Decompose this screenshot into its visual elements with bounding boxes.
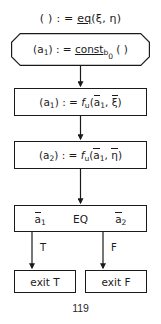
fu1-lhs-close: ): [55, 96, 59, 108]
node-const-text: (a1) : = constb0 ( ): [33, 43, 128, 57]
fu2-lhs: (a: [39, 149, 50, 161]
eq-right-operand-group: a2: [115, 213, 126, 225]
fu2-paren-close: ): [118, 149, 122, 161]
header-args: (ξ, η): [91, 12, 121, 25]
node-exit-true-text: exit T: [30, 276, 59, 288]
const-lhs: (a: [33, 43, 44, 55]
const-operator: const: [75, 43, 103, 55]
eq-left-sub: 1: [41, 218, 46, 227]
node-fu2-text: (a2) : = fu(a1, η): [39, 149, 122, 161]
eq-left-operand: a: [35, 213, 41, 225]
node-exit-false-text: exit F: [102, 276, 131, 288]
fu1-paren-close: ): [118, 96, 122, 108]
eq-comparator: EQ: [73, 213, 88, 225]
node-exit-true[interactable]: exit T: [14, 270, 76, 293]
const-assign: : =: [56, 43, 72, 55]
edge-label-true: T: [40, 242, 46, 253]
flowchart-diagram: ( ) : = eq(ξ, η) (a1) : = constb0 ( ): [0, 0, 161, 324]
fu2-lhs-close: ): [54, 149, 58, 161]
fu1-arg2: ξ: [112, 96, 118, 108]
const-args: ( ): [116, 43, 128, 55]
node-exit-false[interactable]: exit F: [85, 270, 147, 293]
header-assign: : =: [56, 12, 73, 25]
fu1-comma: ,: [105, 96, 112, 108]
eq-left-operand-group: a1: [35, 213, 46, 225]
header-lhs: ( ): [40, 12, 53, 25]
fu1-arg1: a: [94, 96, 100, 108]
node-fu1-text: (a1) : = fu(a1, ξ): [39, 96, 121, 108]
header-formula: ( ) : = eq(ξ, η): [0, 12, 161, 25]
fu1-lhs: (a: [39, 96, 50, 108]
fu2-arg1: a: [93, 149, 99, 161]
eq-right-operand: a: [115, 213, 121, 225]
const-op-subsub: 0: [108, 51, 113, 60]
node-eq-text: a1 EQ a2: [15, 213, 146, 225]
node-fu-assignment-a2[interactable]: (a2) : = fu(a1, η): [14, 141, 147, 169]
fu2-comma: ,: [105, 149, 112, 161]
edge-label-false: F: [111, 242, 117, 253]
const-lhs-close: ): [48, 43, 52, 55]
node-eq-comparison[interactable]: a1 EQ a2: [14, 205, 147, 232]
page-number: 119: [0, 302, 161, 314]
fu1-assign: : =: [62, 96, 78, 108]
node-const-assignment[interactable]: (a1) : = constb0 ( ): [11, 33, 150, 66]
fu2-arg2: η: [111, 149, 118, 161]
node-fu-assignment-a1[interactable]: (a1) : = fu(a1, ξ): [14, 88, 147, 116]
fu2-assign: : =: [62, 149, 78, 161]
eq-right-sub: 2: [122, 218, 127, 227]
header-operator: eq: [77, 12, 91, 25]
